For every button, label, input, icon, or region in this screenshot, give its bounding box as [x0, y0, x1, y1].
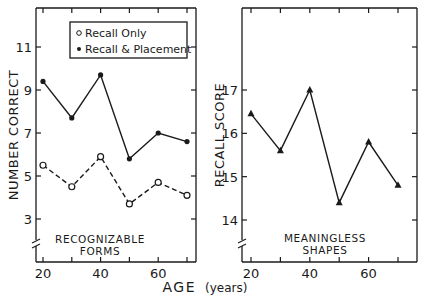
series-line — [43, 157, 187, 204]
y-tick-label: 11 — [15, 40, 32, 55]
open-circle-marker — [40, 162, 46, 168]
legend: Recall OnlyRecall & Placement — [70, 22, 192, 58]
filled-circle-marker — [184, 139, 189, 144]
y-tick-label: 7 — [24, 126, 32, 141]
y-tick-label: 3 — [24, 212, 32, 227]
right-panel-meaningless-shapes: 20406014151617RECALL SCOREMEANINGLESSSHA… — [212, 8, 417, 281]
filled-circle-marker — [40, 79, 45, 84]
y-axis-label: RECALL SCORE — [212, 83, 227, 188]
series-line — [251, 90, 398, 203]
triangle-marker — [365, 138, 372, 145]
x-tick-label: 40 — [302, 266, 319, 281]
x-tick-label: 20 — [243, 266, 260, 281]
filled-circle-marker — [156, 130, 161, 135]
y-axis-label: NUMBER CORRECT — [6, 70, 21, 200]
filled-circle-marker — [127, 156, 132, 161]
x-axis-label: AGE — [162, 279, 196, 295]
panel-annotation: MEANINGLESS — [284, 232, 366, 244]
y-tick-label: 9 — [24, 83, 32, 98]
left-panel-recognizable-forms: 204060357911NUMBER CORRECTRECOGNIZABLEFO… — [6, 8, 196, 281]
filled-circle-icon — [77, 47, 81, 51]
triangle-marker — [306, 86, 313, 93]
panel-annotation: RECOGNIZABLE — [55, 233, 145, 245]
triangle-marker — [336, 199, 343, 206]
open-circle-marker — [184, 192, 190, 198]
open-circle-marker — [155, 179, 161, 185]
legend-label-recall-placement: Recall & Placement — [85, 43, 192, 56]
panel-annotation: SHAPES — [303, 244, 348, 256]
series-line — [43, 75, 187, 159]
chart-figure: 204060357911NUMBER CORRECTRECOGNIZABLEFO… — [0, 0, 421, 302]
filled-circle-marker — [98, 72, 103, 77]
x-axis-unit: (years) — [205, 281, 247, 295]
open-circle-marker — [126, 201, 132, 207]
open-circle-marker — [69, 184, 75, 190]
x-tick-label: 40 — [92, 266, 109, 281]
filled-circle-marker — [69, 115, 74, 120]
open-circle-marker — [98, 154, 104, 160]
x-tick-label: 60 — [360, 266, 377, 281]
x-tick-label: 20 — [35, 266, 52, 281]
triangle-marker — [248, 110, 255, 117]
panel-annotation: FORMS — [80, 245, 120, 257]
y-tick-label: 14 — [221, 213, 238, 228]
shared-labels: AGE (years) — [162, 279, 247, 295]
y-tick-label: 5 — [24, 169, 32, 184]
legend-label-recall-only: Recall Only — [85, 27, 147, 40]
open-circle-icon — [77, 31, 82, 36]
